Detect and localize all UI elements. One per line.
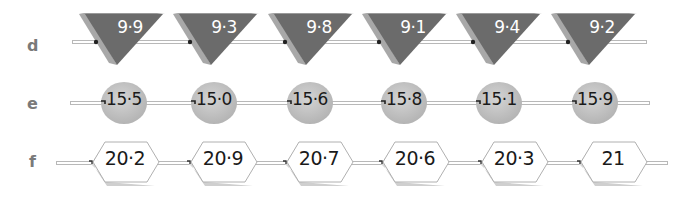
circle-node: 15·5 (101, 82, 147, 124)
circle-value: 15·1 (476, 89, 522, 109)
hexagon-node: 20·7 (283, 140, 355, 186)
triangle-value: 9·4 (464, 17, 550, 37)
triangle-value: 9·9 (87, 17, 173, 37)
hexagon-value: 20·6 (379, 147, 451, 169)
circle-node: 15·1 (476, 82, 522, 124)
circle-value: 15·6 (287, 89, 333, 109)
hexagon-node: 20·6 (379, 140, 451, 186)
track-e (70, 101, 650, 105)
triangle-value: 9·8 (276, 17, 362, 37)
hexagon-node: 21 (577, 140, 649, 186)
triangle-node: 9·9 (79, 13, 165, 65)
circle-value: 15·8 (381, 89, 427, 109)
circle-node: 15·8 (381, 82, 427, 124)
circle-value: 15·9 (572, 89, 618, 109)
hexagon-value: 21 (577, 147, 649, 169)
triangle-node: 9·1 (362, 13, 448, 65)
triangle-value: 9·2 (559, 17, 645, 37)
row-label-e: e (27, 94, 38, 113)
triangle-node: 9·4 (456, 13, 542, 65)
triangle-value: 9·1 (370, 17, 456, 37)
circle-node: 15·9 (572, 82, 618, 124)
triangle-node: 9·8 (268, 13, 354, 65)
circle-node: 15·0 (191, 82, 237, 124)
hexagon-value: 20·3 (478, 147, 550, 169)
hexagon-node: 20·9 (187, 140, 259, 186)
circle-value: 15·5 (101, 89, 147, 109)
circle-node: 15·6 (287, 82, 333, 124)
hexagon-value: 20·2 (89, 147, 161, 169)
triangle-value: 9·3 (181, 17, 267, 37)
hexagon-node: 20·2 (89, 140, 161, 186)
row-label-f: f (29, 152, 36, 171)
hexagon-node: 20·3 (478, 140, 550, 186)
triangle-node: 9·2 (551, 13, 637, 65)
circle-value: 15·0 (191, 89, 237, 109)
hexagon-value: 20·9 (187, 147, 259, 169)
hexagon-value: 20·7 (283, 147, 355, 169)
row-label-d: d (27, 36, 38, 55)
triangle-node: 9·3 (173, 13, 259, 65)
